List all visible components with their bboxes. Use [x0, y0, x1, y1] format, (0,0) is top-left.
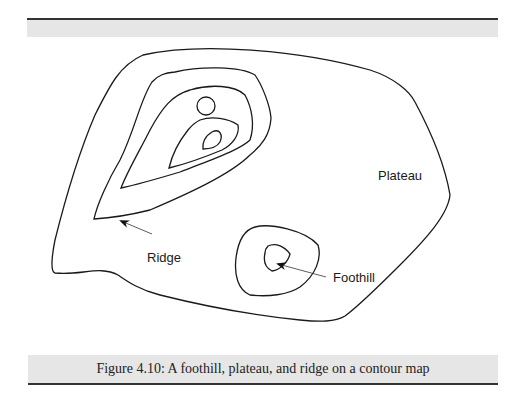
knoll-circle	[197, 97, 215, 115]
foothill-inner-contour	[264, 245, 290, 271]
foothill-arrow	[278, 264, 326, 277]
ridge-arrow	[121, 221, 152, 234]
caption-band: Figure 4.10: A foothill, plateau, and ri…	[28, 355, 498, 383]
plateau-label: Plateau	[378, 168, 422, 183]
bottom-rule	[28, 383, 498, 385]
ridge-contour-2	[94, 68, 271, 219]
ridge-contour-3	[121, 86, 252, 188]
outer-contour	[52, 49, 450, 322]
foothill-label: Foothill	[333, 270, 375, 285]
foothill-outer-contour	[236, 226, 320, 296]
figure-caption: Figure 4.10: A foothill, plateau, and ri…	[96, 361, 429, 377]
peak-contour	[203, 131, 221, 149]
contour-map: Ridge Foothill Plateau	[0, 0, 530, 401]
ridge-label: Ridge	[147, 250, 181, 265]
